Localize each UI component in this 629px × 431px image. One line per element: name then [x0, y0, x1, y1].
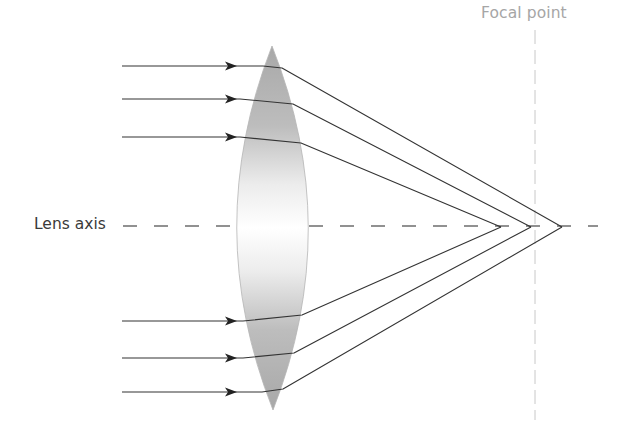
light-ray-2 [122, 95, 531, 228]
ray-path [122, 227, 501, 321]
ray-path [122, 99, 531, 227]
light-rays [122, 62, 562, 397]
ray-path [122, 227, 531, 358]
focal-point-label: Focal point [481, 4, 567, 22]
ray-path [122, 227, 562, 392]
lens-axis-label: Lens axis [34, 215, 106, 233]
light-ray-1 [122, 62, 562, 228]
light-ray-3 [122, 133, 501, 228]
light-ray-5 [122, 227, 531, 363]
light-ray-4 [122, 227, 501, 326]
light-ray-6 [122, 227, 562, 397]
ray-path [122, 66, 562, 227]
lens-diagram: Focal point Lens axis [0, 0, 629, 431]
